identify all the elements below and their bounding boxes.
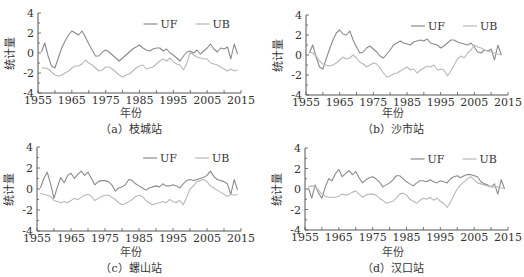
x-axis-label: 年份 <box>0 104 262 120</box>
legend-label-ub: UB <box>212 152 229 165</box>
y-tick-label: 2 <box>27 27 34 40</box>
y-tick-label: 0 <box>26 183 33 196</box>
legend-label-ub: UB <box>213 18 230 31</box>
y-tick-label: 4 <box>295 9 302 22</box>
y-tick-label: 4 <box>27 7 34 20</box>
y-axis-label: 统计量 <box>4 37 17 70</box>
legend-label-uf: UF <box>161 18 178 31</box>
legend-label-uf: UF <box>428 20 445 33</box>
panel-caption: （a）枝城站 <box>0 120 262 136</box>
chart-panel-d: 420-2-41955196519751985199520052015统计量UF… <box>262 138 524 276</box>
series-ub-line <box>41 52 237 77</box>
panel-caption: （d）汉口站 <box>262 259 524 275</box>
x-axis-label: 年份 <box>262 243 524 259</box>
x-axis-label: 年份 <box>0 243 262 259</box>
y-tick-label: 0 <box>295 49 302 62</box>
series-uf-line <box>308 170 504 199</box>
y-tick-label: 2 <box>295 29 302 42</box>
y-tick-label: 2 <box>26 162 33 175</box>
chart-panel-c: 420-2-41955196519751985199520052015统计量UF… <box>0 138 262 276</box>
series-uf-line <box>40 171 237 198</box>
y-tick-label: 0 <box>294 183 301 196</box>
y-axis-label: 统计量 <box>3 173 16 206</box>
y-tick-label: 4 <box>26 141 33 154</box>
y-tick-label: 4 <box>294 142 301 155</box>
y-axis-label: 统计量 <box>271 173 284 206</box>
chart-panel-b: 420-2-41955196519751985199520052015统计量UF… <box>262 0 524 138</box>
x-axis-label: 年份 <box>262 104 524 120</box>
y-tick-label: -2 <box>22 204 33 217</box>
series-ub-line <box>40 180 237 205</box>
y-tick-label: -2 <box>290 204 301 217</box>
series-uf-line <box>41 31 237 68</box>
legend-label-ub: UB <box>480 20 497 33</box>
y-tick-label: -2 <box>291 69 302 82</box>
panel-caption: （b）沙市站 <box>262 120 524 136</box>
y-tick-label: 2 <box>294 163 301 176</box>
series-uf-line <box>309 30 501 69</box>
y-axis-label: 统计量 <box>272 39 285 72</box>
y-tick-label: -2 <box>23 67 34 80</box>
panel-caption: （c）螺山站 <box>0 259 262 275</box>
legend-label-ub: UB <box>480 153 497 166</box>
series-ub-line <box>309 45 501 77</box>
y-tick-label: 0 <box>27 47 34 60</box>
legend-label-uf: UF <box>428 153 445 166</box>
legend-label-uf: UF <box>160 152 177 165</box>
chart-panel-a: 420-2-41955196519751985199520052015统计量UF… <box>0 0 262 138</box>
